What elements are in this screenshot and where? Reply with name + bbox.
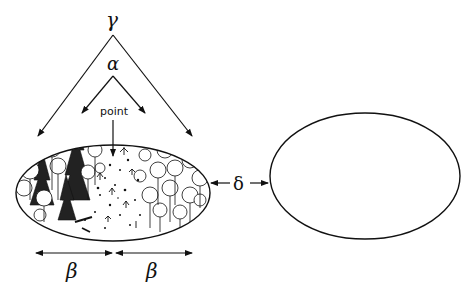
gamma-arrows bbox=[38, 35, 192, 136]
right-ellipse bbox=[270, 113, 460, 239]
forest-illustration bbox=[16, 120, 208, 232]
diversity-diagram: γ α point bbox=[0, 0, 472, 293]
alpha-label: α bbox=[107, 53, 119, 74]
point-label: point bbox=[100, 105, 129, 118]
beta-right-label: β bbox=[145, 259, 158, 283]
beta-left-label: β bbox=[65, 259, 78, 283]
delta-label: δ bbox=[233, 173, 244, 194]
gamma-label: γ bbox=[106, 8, 118, 32]
